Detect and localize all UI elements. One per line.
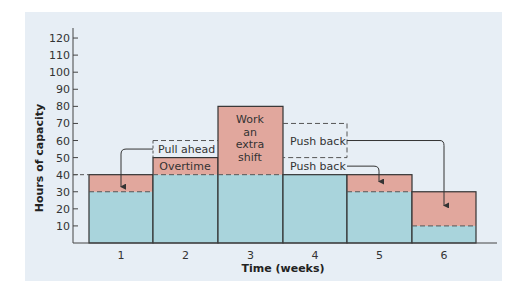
bar-regular xyxy=(347,192,412,243)
bar-regular xyxy=(283,175,347,243)
push-back-label-2: Push back xyxy=(290,160,346,173)
extra-shift-label: extra xyxy=(236,138,265,151)
x-axis-title: Time (weeks) xyxy=(241,262,324,275)
x-tick-label: 1 xyxy=(118,249,125,262)
y-tick-label: 90 xyxy=(56,83,70,96)
y-tick-label: 20 xyxy=(56,203,70,216)
bar-regular xyxy=(218,175,283,243)
overtime-label: Overtime xyxy=(159,160,211,173)
extra-shift-label: shift xyxy=(238,151,262,164)
y-tick-label: 80 xyxy=(56,100,70,113)
pull-ahead-label: Pull ahead xyxy=(158,143,215,156)
bar-regular xyxy=(89,192,153,243)
capacity-chart: 123456102030405060708090100110120 Pull a… xyxy=(0,0,529,293)
x-tick-label: 6 xyxy=(441,249,448,262)
y-tick-label: 50 xyxy=(56,152,70,165)
y-tick-label: 60 xyxy=(56,135,70,148)
bar-regular xyxy=(153,175,218,243)
y-tick-label: 120 xyxy=(49,32,70,45)
bars xyxy=(89,106,476,243)
push-back-label-1: Push back xyxy=(290,135,346,148)
extra-shift-label: an xyxy=(243,126,257,139)
x-tick-label: 3 xyxy=(247,249,254,262)
extra-shift-label: Work xyxy=(236,113,264,126)
y-tick-label: 30 xyxy=(56,186,70,199)
y-tick-label: 70 xyxy=(56,117,70,130)
x-tick-label: 4 xyxy=(312,249,319,262)
bar-regular xyxy=(412,226,476,243)
y-axis-title: Hours of capacity xyxy=(33,104,46,213)
x-tick-label: 5 xyxy=(376,249,383,262)
y-tick-label: 110 xyxy=(49,49,70,62)
x-tick-label: 2 xyxy=(182,249,189,262)
y-tick-label: 10 xyxy=(56,220,70,233)
y-tick-label: 40 xyxy=(56,169,70,182)
y-tick-label: 100 xyxy=(49,66,70,79)
